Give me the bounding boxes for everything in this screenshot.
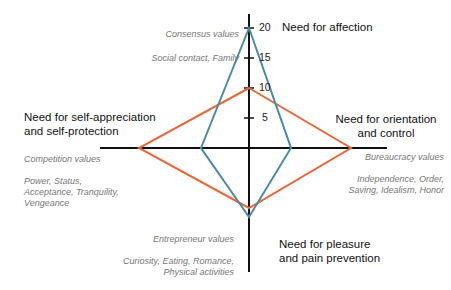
tick-5: 5 xyxy=(262,111,268,123)
tick-10: 10 xyxy=(259,81,271,93)
bureaucracy-label: Bureaucracy values xyxy=(340,152,444,163)
social-label: Social contact, Family xyxy=(130,53,239,64)
radar-chart xyxy=(0,0,451,290)
affection-heading: Need for affection xyxy=(282,20,373,34)
competition-label: Competition values xyxy=(24,154,101,165)
competition-examples: Power, Status, Acceptance, Tranquility, … xyxy=(24,176,119,209)
consensus-label: Consensus values xyxy=(150,29,239,40)
entrepreneur-label: Entrepreneur values xyxy=(120,234,234,245)
tick-15: 15 xyxy=(259,51,271,63)
pleasure-heading: Need for pleasure and pain prevention xyxy=(279,237,380,265)
entrepreneur-examples: Curiosity, Eating, Romance, Physical act… xyxy=(100,256,234,278)
tick-20: 20 xyxy=(259,21,271,33)
bureaucracy-examples: Independence, Order, Saving, Idealism, H… xyxy=(320,174,444,196)
orientation-heading: Need for orientation and control xyxy=(330,112,442,140)
self-heading: Need for self-appreciation and self-prot… xyxy=(24,110,156,138)
